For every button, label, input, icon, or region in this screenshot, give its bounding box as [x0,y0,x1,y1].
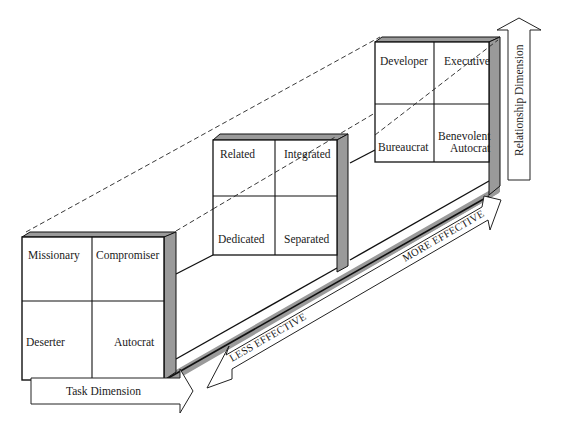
box-side-shade [337,134,348,272]
box-side-shade [489,37,500,195]
cell-missionary: Missionary [28,249,80,262]
floor-back-right [350,150,375,163]
grid-basic: Related Integrated Dedicated Separated [213,134,348,272]
cell-autocrat: Autocrat [114,336,155,348]
box-top-lip [213,134,348,140]
cell-developer: Developer [380,55,428,68]
box-top-lip [375,37,500,42]
cell-deserter: Deserter [26,336,65,348]
cell-bureaucrat: Bureaucrat [378,141,429,153]
cell-executive: Executive [444,55,490,67]
grid-more-effective: Developer Executive Bureaucrat Benevolen… [375,37,500,195]
relationship-dimension-label: Relationship Dimension [513,44,526,156]
floor-back-left [176,255,213,274]
cell-benevolent-autocrat-line2: Autocrat [450,142,491,154]
cell-compromiser: Compromiser [96,249,159,262]
relationship-dimension-arrow: Relationship Dimension [497,18,541,180]
cell-integrated: Integrated [284,148,331,161]
cell-dedicated: Dedicated [218,233,265,245]
grid-less-effective: Missionary Compromiser Deserter Autocrat [22,232,176,380]
task-dimension-label: Task Dimension [66,385,141,397]
diagram-canvas: Developer Executive Bureaucrat Benevolen… [0,0,567,433]
box-top-lip [22,232,176,237]
cell-benevolent-autocrat-line1: Benevolent [438,130,491,142]
cell-related: Related [220,148,255,160]
box-side-shade [164,232,176,380]
cell-separated: Separated [284,233,330,246]
